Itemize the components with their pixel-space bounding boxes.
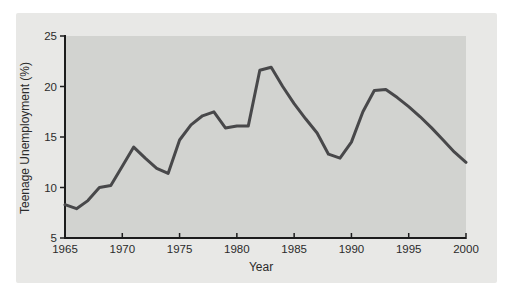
y-axis-tick-label: 20 xyxy=(44,81,57,93)
plot-area xyxy=(65,36,466,238)
x-axis-tick-label: 2000 xyxy=(453,243,479,255)
x-axis-tick-label: 1975 xyxy=(167,243,193,255)
chart-figure: 5101520251965197019751980198519901995200… xyxy=(0,0,517,299)
x-axis-tick-label: 1965 xyxy=(52,243,78,255)
y-axis-tick-label: 15 xyxy=(44,131,57,143)
y-axis-title: Teenage Unemployment (%) xyxy=(18,62,32,214)
line-chart: 5101520251965197019751980198519901995200… xyxy=(0,0,517,299)
x-axis-tick-label: 1990 xyxy=(339,243,365,255)
x-axis-tick-label: 1985 xyxy=(281,243,307,255)
x-axis-tick-label: 1980 xyxy=(224,243,250,255)
x-axis-tick-label: 1970 xyxy=(109,243,135,255)
y-axis-tick-label: 25 xyxy=(44,30,57,42)
x-axis-title: Year xyxy=(249,260,273,274)
x-axis-tick-label: 1995 xyxy=(396,243,422,255)
y-axis-tick-label: 10 xyxy=(44,182,57,194)
